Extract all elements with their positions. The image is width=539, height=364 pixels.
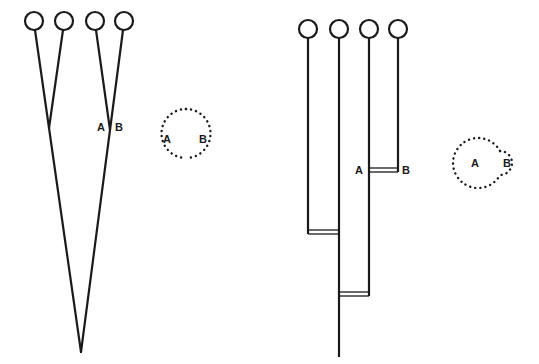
branch xyxy=(81,130,110,352)
branch xyxy=(35,30,49,128)
tip-node xyxy=(86,12,104,30)
left-venn-label-a: A xyxy=(163,133,171,145)
tip-node xyxy=(330,20,348,38)
right-label-b: B xyxy=(402,164,410,176)
tip-node xyxy=(55,12,73,30)
branch xyxy=(110,30,123,130)
branch xyxy=(49,128,81,352)
right-venn-label-a: A xyxy=(471,157,479,169)
left-label-a: A xyxy=(97,121,105,133)
tip-node xyxy=(25,12,43,30)
right-joins xyxy=(308,168,398,296)
left-tree xyxy=(25,12,133,352)
right-tree xyxy=(299,20,407,357)
tip-node xyxy=(389,20,407,38)
right-label-a: A xyxy=(355,164,363,176)
left-label-b: B xyxy=(115,121,123,133)
left-venn-label-b: B xyxy=(199,133,207,145)
branch xyxy=(49,30,63,128)
tip-node xyxy=(299,20,317,38)
tree-diagram: A B A B A B A B xyxy=(0,0,539,364)
branch xyxy=(96,30,110,130)
tip-node xyxy=(360,20,378,38)
tip-node xyxy=(115,12,133,30)
right-venn-label-b: B xyxy=(503,157,511,169)
